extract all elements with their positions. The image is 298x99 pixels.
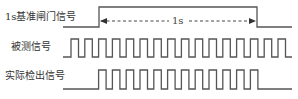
detected-signal-waveform	[63, 70, 292, 89]
measured-signal-waveform	[63, 39, 292, 57]
gate-timing-diagram: 1s基准闸门信号 被测信号 实际检出信号 1s	[0, 0, 298, 99]
detected-signal-label: 实际检出信号	[5, 70, 65, 82]
interval-label: 1s	[169, 15, 187, 27]
measured-signal-label: 被测信号	[11, 41, 51, 53]
gate-signal-label: 1s基准闸门信号	[5, 11, 77, 23]
